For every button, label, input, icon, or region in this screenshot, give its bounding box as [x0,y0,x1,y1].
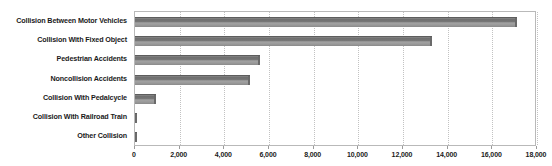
bar [135,113,137,123]
category-axis: Collision Between Motor VehiclesCollisio… [0,11,131,146]
axis-tick-label: 10,000 [347,150,368,159]
axis-tick-label: 4,000 [215,150,232,159]
axis-tick-mark [179,146,180,149]
bar-end-cap [135,114,137,123]
bar [135,75,250,85]
category-label: Collision With Fixed Object [0,36,127,44]
bar [135,36,432,46]
axis-tick-mark [223,146,224,149]
axis-tick-mark [536,146,537,149]
bar-end-cap [154,95,156,104]
category-label: Other Collision [0,132,127,140]
bar-end-cap [135,133,137,142]
axis-tick-mark [447,146,448,149]
bar-end-cap [248,76,250,85]
axis-tick-label: 12,000 [392,150,413,159]
axis-tick-label: 6,000 [259,150,276,159]
axis-tick-label: 18,000 [526,150,547,159]
bars-layer [135,12,535,145]
axis-tick-label: 14,000 [436,150,457,159]
axis-tick-label: 16,000 [481,150,502,159]
bar-end-cap [258,56,260,65]
axis-tick-mark [134,146,135,149]
bar [135,94,156,104]
bar-chart: Collision Between Motor VehiclesCollisio… [0,0,552,166]
axis-tick-mark [313,146,314,149]
gridline [537,12,538,145]
category-label: Collision With Pedalcycle [0,94,127,102]
axis-tick-mark [268,146,269,149]
category-label: Collision Between Motor Vehicles [0,17,127,25]
axis-tick-mark [357,146,358,149]
bar-end-cap [515,18,517,27]
plot-area [134,11,536,146]
axis-tick-label: 2,000 [170,150,187,159]
bar-end-cap [430,37,432,46]
axis-tick-label: 8,000 [304,150,321,159]
bar [135,17,517,27]
category-label: Pedestrian Accidents [0,55,127,63]
axis-tick-mark [491,146,492,149]
value-axis: 02,0004,0006,0008,00010,00012,00014,0001… [134,146,536,166]
axis-tick-mark [402,146,403,149]
category-label: Noncollision Accidents [0,75,127,83]
bar [135,132,137,142]
category-label: Collision With Railroad Train [0,113,127,121]
bar [135,55,260,65]
axis-tick-label: 0 [132,150,136,159]
